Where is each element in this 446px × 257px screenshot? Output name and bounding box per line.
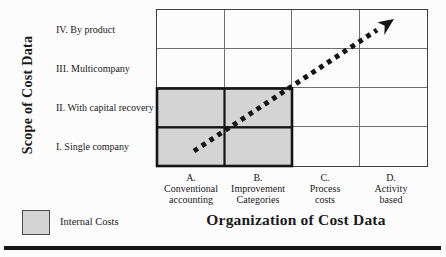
row-label-i: I. Single company xyxy=(56,141,129,153)
grid-cell xyxy=(360,10,428,49)
grid-cell xyxy=(292,49,360,88)
grid-cell xyxy=(225,49,293,88)
grid-cell xyxy=(157,49,225,88)
grid-cell-internal-costs xyxy=(157,127,225,166)
matrix-grid xyxy=(156,9,428,167)
grid-cell-internal-costs xyxy=(157,88,225,127)
y-axis-title: Scope of Cost Data xyxy=(20,36,36,155)
row-label-iii: III. Multicompany xyxy=(56,63,130,75)
grid-cell-internal-costs xyxy=(225,88,293,127)
row-label-ii: II. With capital recovery xyxy=(56,102,154,114)
grid-cell xyxy=(360,49,428,88)
grid-cell xyxy=(157,10,225,49)
grid-cell-internal-costs xyxy=(225,127,293,166)
grid-cell xyxy=(225,10,293,49)
column-text-line2: based xyxy=(336,194,446,205)
column-label-d: D. Activity based xyxy=(336,172,446,205)
grid-cell xyxy=(292,10,360,49)
column-text-line1: Activity xyxy=(336,183,446,194)
grid-cell xyxy=(360,88,428,127)
column-letter: D. xyxy=(336,172,446,183)
legend-label: Internal Costs xyxy=(60,216,119,227)
grid-cell xyxy=(292,88,360,127)
grid-cell xyxy=(292,127,360,166)
legend-swatch xyxy=(22,210,50,235)
bottom-rule xyxy=(4,246,441,250)
grid-cell xyxy=(360,127,428,166)
figure-canvas: Scope of Cost Data IV. By product III. M… xyxy=(0,0,446,257)
row-label-iv: IV. By product xyxy=(56,24,115,36)
x-axis-title: Organization of Cost Data xyxy=(206,211,385,229)
